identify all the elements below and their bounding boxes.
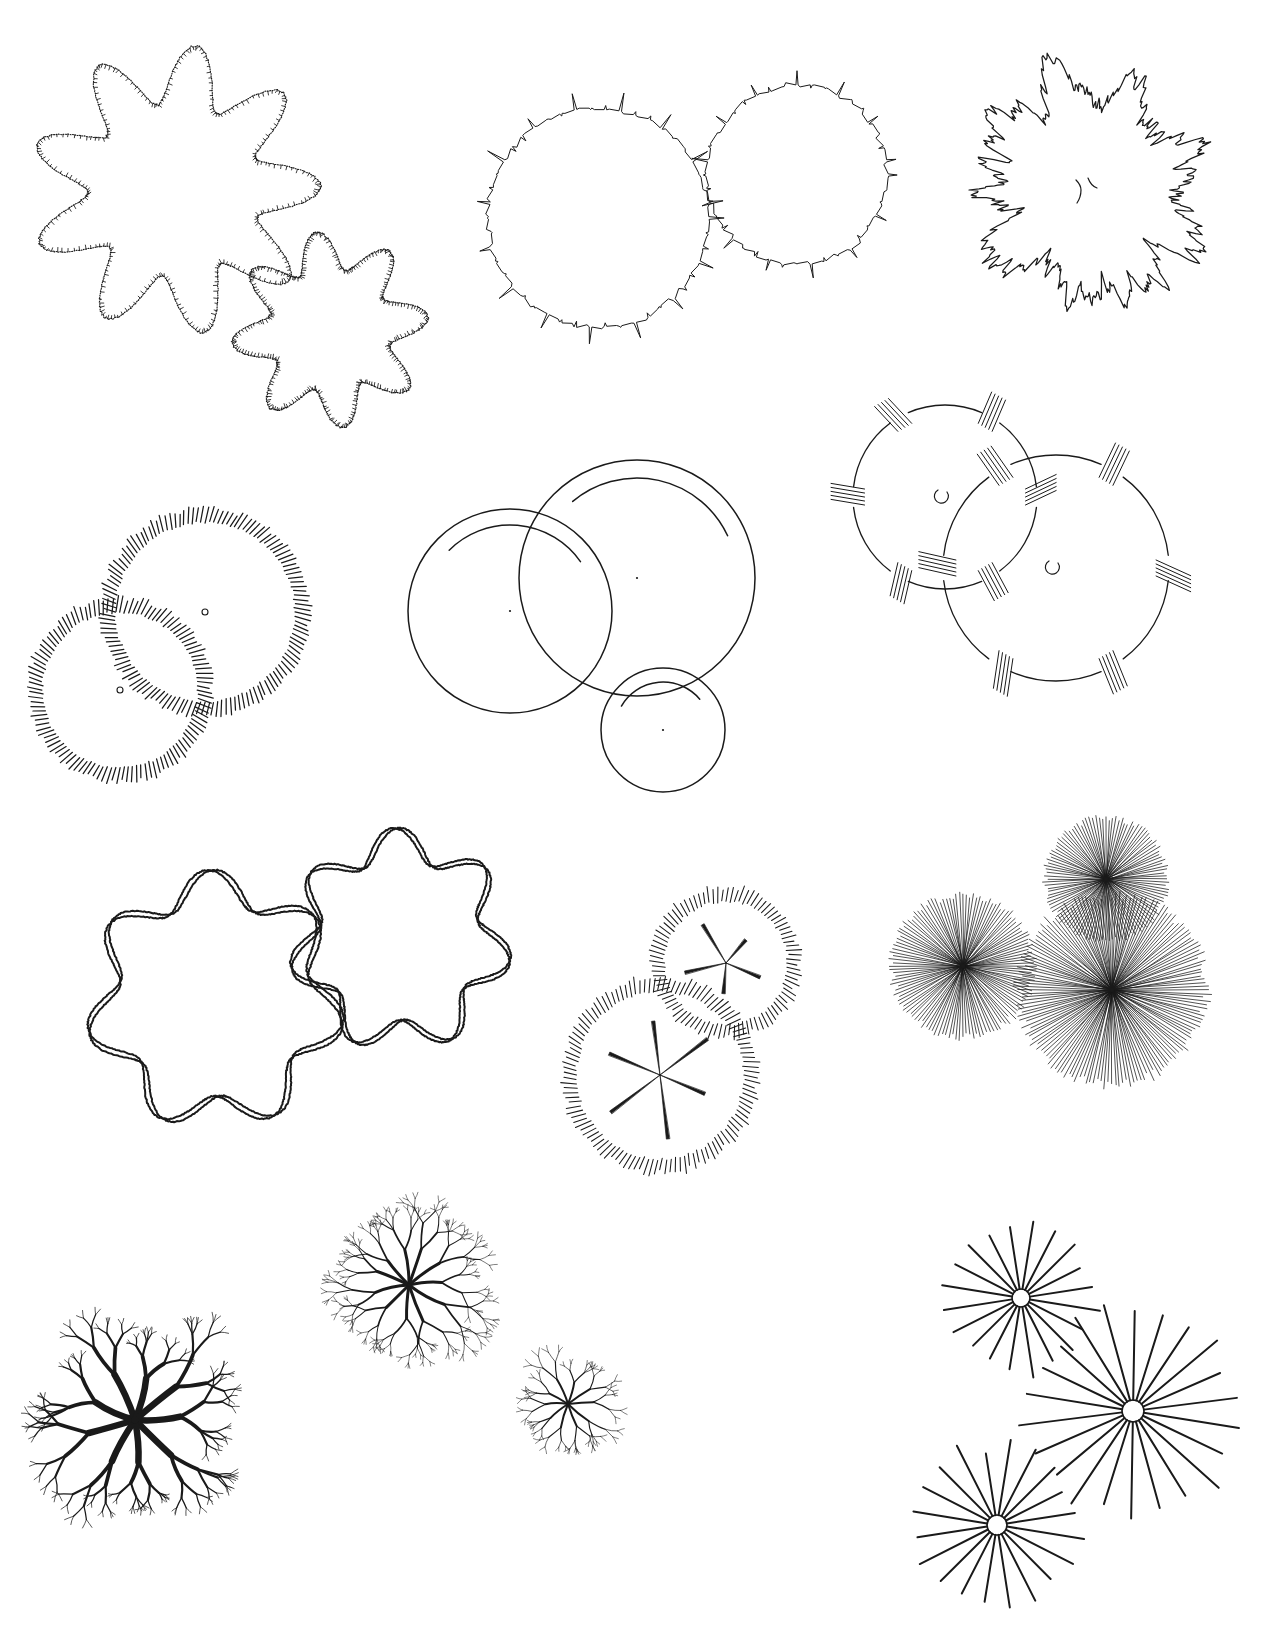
tree-branch bbox=[545, 1403, 568, 1404]
fringe-tick bbox=[294, 590, 306, 591]
canopy-stipple-tick bbox=[316, 184, 320, 185]
canopy-stipple-tick bbox=[261, 162, 262, 165]
canopy-stipple-tick bbox=[40, 240, 43, 241]
canopy-stipple-tick bbox=[262, 266, 263, 269]
fringe-tick bbox=[713, 890, 714, 904]
canopy-stipple-tick bbox=[270, 281, 271, 283]
canopy-stipple-tick bbox=[374, 383, 375, 386]
canopy-stipple-tick bbox=[270, 354, 271, 358]
fringe-tick bbox=[131, 767, 132, 782]
fringe-tick bbox=[741, 1052, 754, 1053]
canopy-center-dot bbox=[662, 729, 664, 731]
canopy-center-dot bbox=[509, 610, 511, 612]
canopy-stipple-tick bbox=[313, 233, 314, 236]
canopy-stipple-tick bbox=[207, 72, 211, 73]
canopy-stipple-tick bbox=[268, 393, 272, 394]
tree-symbol-plate bbox=[0, 0, 1275, 1636]
canopy-stipple-tick bbox=[273, 209, 274, 211]
fringe-tick bbox=[291, 582, 304, 583]
canopy-stipple-tick bbox=[353, 401, 356, 402]
canopy-stipple-tick bbox=[253, 96, 254, 98]
canopy-stipple-tick bbox=[96, 245, 97, 247]
canopy-stipple-tick bbox=[250, 275, 254, 276]
fringe-tick bbox=[188, 507, 189, 523]
canopy-stipple-tick bbox=[384, 282, 387, 283]
fringe-tick bbox=[652, 971, 665, 972]
canopy-stipple-tick bbox=[253, 153, 256, 154]
canopy-stipple-tick bbox=[369, 382, 370, 384]
canopy-stipple-tick bbox=[293, 277, 294, 280]
canopy-stipple-tick bbox=[273, 354, 274, 358]
fringe-tick bbox=[235, 697, 236, 710]
canopy-stipple-tick bbox=[107, 243, 108, 246]
canopy-stipple-tick bbox=[115, 315, 116, 318]
tree-branch bbox=[114, 1348, 115, 1375]
canopy-stipple-tick bbox=[38, 151, 42, 152]
fringe-tick bbox=[789, 954, 801, 955]
tree-branch bbox=[204, 1402, 222, 1403]
canopy-stipple-tick bbox=[303, 258, 306, 259]
canopy-stipple-tick bbox=[276, 270, 277, 272]
tree-branch bbox=[462, 1292, 477, 1293]
canopy-stipple-tick bbox=[407, 381, 409, 382]
sheet-background bbox=[0, 0, 1275, 1636]
canopy-stipple-tick bbox=[281, 165, 282, 169]
tree-branch bbox=[135, 1420, 139, 1462]
tree-branch bbox=[182, 1481, 183, 1498]
fringe-tick bbox=[175, 514, 176, 527]
canopy-stipple-tick bbox=[320, 397, 322, 398]
canopy-stipple-tick bbox=[352, 268, 353, 272]
burst-core bbox=[961, 964, 965, 968]
fringe-tick bbox=[221, 700, 222, 717]
canopy-center-dot bbox=[636, 577, 638, 579]
canopy-stipple-tick bbox=[268, 209, 269, 212]
tree-trunk-node bbox=[407, 1283, 410, 1286]
burst-core bbox=[1110, 988, 1114, 992]
canopy-stipple-tick bbox=[99, 65, 100, 68]
canopy-stipple-tick bbox=[91, 137, 92, 140]
tree-branch bbox=[448, 1233, 449, 1246]
fringe-tick bbox=[566, 1097, 579, 1098]
fringe-tick bbox=[644, 980, 645, 992]
burst-core bbox=[1104, 877, 1108, 881]
fringe-tick bbox=[291, 586, 306, 587]
canopy-stipple-tick bbox=[206, 60, 209, 61]
tree-trunk-node bbox=[567, 1403, 569, 1405]
tree-branch bbox=[192, 1334, 193, 1355]
fringe-tick bbox=[197, 678, 213, 679]
canopy-stipple-tick bbox=[292, 168, 293, 170]
drawing-sheet bbox=[0, 0, 1275, 1636]
fringe-tick bbox=[106, 641, 119, 642]
canopy-stipple-tick bbox=[110, 243, 111, 246]
tree-trunk-node bbox=[131, 1416, 138, 1423]
canopy-stipple-tick bbox=[282, 279, 283, 283]
canopy-stipple-tick bbox=[354, 395, 357, 396]
